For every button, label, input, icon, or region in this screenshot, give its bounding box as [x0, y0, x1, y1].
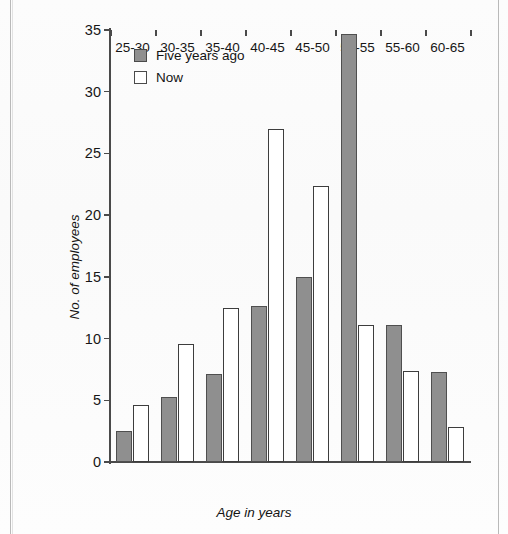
y-axis-tick — [104, 461, 110, 463]
y-axis-tick — [104, 276, 110, 278]
bar-50-55-now — [358, 325, 374, 462]
x-axis-category-label: 45-50 — [295, 40, 330, 55]
legend-item-now: Now — [134, 70, 245, 85]
y-axis-tick-label: 15 — [85, 269, 101, 285]
y-axis-tick-label: 20 — [85, 207, 101, 223]
y-axis-tick-label: 5 — [93, 392, 101, 408]
legend-swatch-empty-square-icon — [134, 71, 147, 84]
bar-30-35-now — [178, 344, 194, 462]
y-axis-title: No. of employees — [67, 214, 82, 319]
legend-label-now: Now — [156, 70, 183, 85]
x-axis-tick — [245, 30, 247, 36]
legend-label-five-years-ago: Five years ago — [156, 48, 245, 63]
bar-chart: 0510152025303525-3030-3535-4040-4545-505… — [0, 0, 508, 534]
x-axis-category-label: 55-60 — [385, 40, 420, 55]
bar-25-30-now — [133, 405, 149, 462]
bar-40-45-now — [268, 129, 284, 462]
bar-55-60-now — [403, 371, 419, 462]
legend-swatch-filled-square-icon — [134, 49, 147, 62]
y-axis-tick-label: 0 — [93, 454, 101, 470]
x-axis-title: Age in years — [0, 505, 508, 520]
x-axis-tick — [200, 30, 202, 36]
x-axis-tick — [425, 30, 427, 36]
x-axis-tick — [335, 30, 337, 36]
chart-legend: Five years ago Now — [134, 48, 245, 92]
bar-35-40-past — [206, 374, 222, 462]
bar-35-40-now — [223, 308, 239, 462]
x-axis-tick — [470, 30, 472, 36]
y-axis-tick — [104, 214, 110, 216]
bar-45-50-now — [313, 186, 329, 462]
y-axis-tick-label: 10 — [85, 331, 101, 347]
y-axis-tick — [104, 338, 110, 340]
y-axis-tick-label: 35 — [85, 22, 101, 38]
bar-55-60-past — [386, 325, 402, 462]
x-axis-category-label: 60-65 — [430, 40, 465, 55]
bar-45-50-past — [296, 277, 312, 462]
y-axis-tick — [104, 400, 110, 402]
bar-30-35-past — [161, 397, 177, 462]
bar-40-45-past — [251, 306, 267, 462]
x-axis-tick — [155, 30, 157, 36]
y-axis-tick-label: 30 — [85, 84, 101, 100]
bar-60-65-now — [448, 427, 464, 462]
x-axis-tick — [110, 30, 112, 36]
bar-60-65-past — [431, 372, 447, 462]
bar-25-30-past — [116, 431, 132, 462]
plot-area: 0510152025303525-3030-3535-4040-4545-505… — [110, 30, 470, 462]
x-axis-tick — [380, 30, 382, 36]
y-axis-tick — [104, 153, 110, 155]
y-axis-tick-label: 25 — [85, 145, 101, 161]
x-axis-tick — [290, 30, 292, 36]
legend-item-five-years-ago: Five years ago — [134, 48, 245, 63]
bar-50-55-past — [341, 34, 357, 462]
y-axis-tick — [104, 91, 110, 93]
x-axis-category-label: 40-45 — [250, 40, 285, 55]
